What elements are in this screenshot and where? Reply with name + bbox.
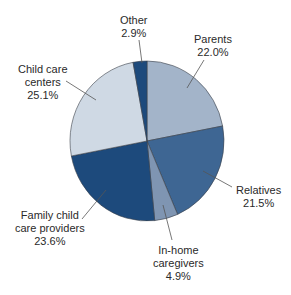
label-parents-name: Parents: [194, 33, 232, 46]
label-other: Other 2.9%: [120, 14, 148, 40]
label-centers-line1: Child care: [18, 63, 68, 76]
label-family-value: 23.6%: [15, 235, 85, 248]
label-parents: Parents 22.0%: [194, 33, 232, 59]
label-inhome-value: 4.9%: [153, 270, 204, 283]
label-centers-line2: centers: [18, 76, 68, 89]
label-inhome: In-home caregivers 4.9%: [153, 244, 204, 283]
label-inhome-line2: caregivers: [153, 257, 204, 270]
label-other-value: 2.9%: [120, 27, 148, 40]
label-relatives-name: Relatives: [236, 184, 281, 197]
pie-slices: [70, 61, 224, 221]
label-family-line1: Family child: [15, 209, 85, 222]
label-other-name: Other: [120, 14, 148, 27]
label-family: Family child care providers 23.6%: [15, 209, 85, 248]
pie-chart: [0, 0, 291, 295]
label-inhome-line1: In-home: [153, 244, 204, 257]
label-parents-value: 22.0%: [194, 46, 232, 59]
label-centers: Child care centers 25.1%: [18, 63, 68, 102]
label-family-line2: care providers: [15, 222, 85, 235]
label-relatives-value: 21.5%: [236, 197, 281, 210]
leader-other: [139, 40, 142, 63]
label-centers-value: 25.1%: [18, 89, 68, 102]
label-relatives: Relatives 21.5%: [236, 184, 281, 210]
